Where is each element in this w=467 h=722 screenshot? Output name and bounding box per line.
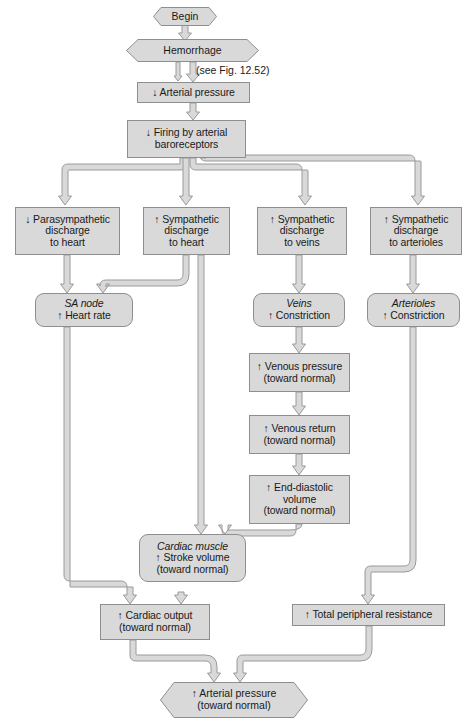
node-veins-line1: ↑ Constriction (268, 309, 330, 321)
node-cardiac-muscle-line1: ↑ Stroke volume (156, 551, 230, 563)
node-sympathetic-veins[interactable]: ↑ Sympathetic discharge to veins (257, 207, 347, 255)
node-sympathetic-veins-line2: discharge (280, 224, 325, 236)
node-cardiac-muscle[interactable]: Cardiac muscle ↑ Stroke volume (toward n… (139, 534, 246, 582)
node-sympathetic-arterioles-line2: discharge (394, 224, 439, 236)
node-cardiac-output-line1: ↑ Cardiac output (118, 609, 193, 621)
node-sympathetic-heart-line2: discharge (164, 224, 209, 236)
node-venous-pressure[interactable]: ↑ Venous pressure (toward normal) (249, 353, 350, 392)
edge-parasympathetic-sa (61, 255, 74, 293)
node-sa-node[interactable]: SA node ↑ Heart rate (35, 293, 133, 327)
node-baroreceptors[interactable]: ↓ Firing by arterial baroreceptors (127, 120, 246, 158)
node-end-diastolic-volume-line3: (toward normal) (263, 504, 335, 516)
node-sympathetic-heart-line1: ↑ Sympathetic (154, 213, 219, 225)
flowchart-canvas: Begin Hemorrhage (see Fig. 12.52) ↓ Arte… (0, 0, 467, 722)
node-venous-pressure-line2: (toward normal) (263, 372, 335, 384)
edge-venouspressure-venousreturn (293, 392, 306, 415)
figure-reference-note: (see Fig. 12.52) (196, 64, 270, 76)
edge-cardiacoutput-arterialup (130, 640, 221, 682)
node-end-diastolic-volume[interactable]: ↑ End-diastolic volume (toward normal) (249, 475, 350, 524)
node-arterial-pressure-up-line1: ↑ Arterial pressure (192, 687, 277, 699)
node-sympathetic-heart[interactable]: ↑ Sympathetic discharge to heart (143, 207, 230, 255)
node-sympathetic-arterioles[interactable]: ↑ Sympathetic discharge to arterioles (370, 207, 462, 255)
edge-veins-venouspressure (293, 327, 306, 353)
node-arterioles-line1: ↑ Constriction (382, 309, 444, 321)
node-arterial-pressure-down-label: ↓ Arterial pressure (138, 87, 249, 99)
node-sympathetic-veins-line3: to veins (284, 236, 319, 248)
node-arterial-pressure-up-line2: (toward normal) (197, 699, 271, 711)
node-end-diastolic-volume-line2: volume (283, 493, 316, 505)
node-parasympathetic-heart-line3: to heart (50, 236, 85, 248)
node-venous-return-line1: ↑ Venous return (263, 422, 335, 434)
edge-sa-cardiacoutput (64, 327, 137, 604)
node-venous-return[interactable]: ↑ Venous return (toward normal) (249, 415, 350, 454)
edge-cardiacmuscle-cardiacoutput (175, 592, 188, 604)
node-cardiac-output-line2: (toward normal) (119, 621, 191, 633)
edge-symheart-cardiacmuscle (195, 255, 208, 534)
node-parasympathetic-heart-line2: discharge (45, 224, 90, 236)
edge-baro-symarterioles (200, 155, 425, 205)
node-sympathetic-arterioles-line1: ↑ Sympathetic (384, 213, 449, 225)
node-veins[interactable]: Veins ↑ Constriction (253, 293, 345, 327)
node-arterial-pressure-up[interactable]: ↑ Arterial pressure (toward normal) (160, 682, 308, 718)
node-begin[interactable]: Begin (153, 7, 217, 26)
edge-tpr-arterialup (234, 626, 373, 682)
node-sympathetic-veins-line1: ↑ Sympathetic (270, 213, 335, 225)
node-begin-label: Begin (153, 7, 217, 26)
edge-baro-symveins (190, 158, 312, 205)
edge-hemorrhage-tick (174, 62, 182, 81)
edge-symarterioles-arterioles (407, 255, 420, 293)
edge-baro-parasympathetic (59, 158, 187, 205)
node-total-peripheral-resistance[interactable]: ↑ Total peripheral resistance (292, 604, 445, 626)
node-arterial-pressure-down[interactable]: ↓ Arterial pressure (137, 82, 250, 103)
node-baroreceptors-line2: baroreceptors (155, 138, 218, 150)
edge-symheart-sa (97, 255, 190, 293)
edge-venousreturn-enddiastolic (293, 454, 306, 475)
node-sa-node-line1: ↑ Heart rate (57, 309, 111, 321)
node-parasympathetic-heart-line1: ↓ Parasympathetic (25, 213, 110, 225)
node-parasympathetic-heart[interactable]: ↓ Parasympathetic discharge to heart (15, 207, 120, 255)
edge-arterial-baro (187, 103, 200, 120)
node-venous-pressure-line1: ↑ Venous pressure (257, 360, 342, 372)
node-cardiac-output[interactable]: ↑ Cardiac output (toward normal) (100, 604, 210, 640)
node-venous-return-line2: (toward normal) (263, 434, 335, 446)
node-hemorrhage-label: Hemorrhage (126, 39, 259, 62)
node-arterioles[interactable]: Arterioles ↑ Constriction (367, 293, 460, 327)
node-end-diastolic-volume-line1: ↑ End-diastolic (266, 481, 333, 493)
node-sympathetic-arterioles-line3: to arterioles (389, 236, 443, 248)
node-baroreceptors-line1: ↓ Firing by arterial (146, 126, 227, 138)
edge-arterioles-tpr (362, 327, 417, 604)
node-sympathetic-heart-line3: to heart (169, 236, 204, 248)
node-total-peripheral-resistance-label: ↑ Total peripheral resistance (293, 609, 444, 621)
node-hemorrhage[interactable]: Hemorrhage (126, 39, 259, 62)
node-cardiac-muscle-line2: (toward normal) (156, 563, 228, 575)
edge-symveins-veins (293, 255, 306, 293)
